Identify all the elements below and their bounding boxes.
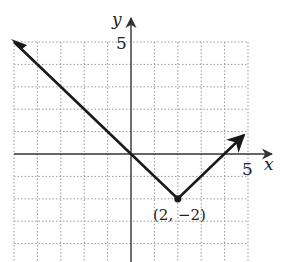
vertex-point bbox=[174, 195, 181, 202]
x-axis-label: x bbox=[264, 154, 274, 174]
vertex-label: (2, −2) bbox=[153, 206, 206, 224]
coordinate-plane: y 5 5 x (2, −2) bbox=[0, 0, 282, 262]
x-tick-label-5: 5 bbox=[242, 159, 253, 179]
y-tick-label-5: 5 bbox=[116, 33, 127, 53]
y-axis-label: y bbox=[111, 9, 122, 29]
function-graph bbox=[14, 42, 244, 199]
